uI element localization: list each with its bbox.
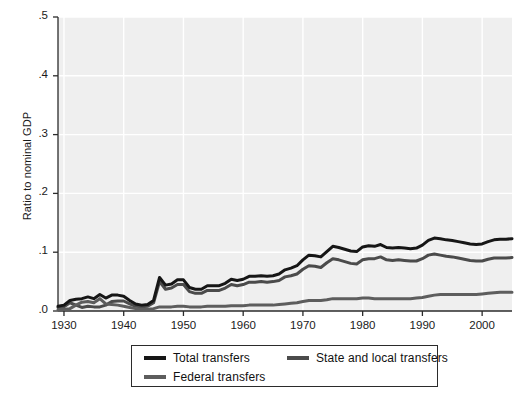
legend-swatch-icon xyxy=(144,356,166,360)
plot-background xyxy=(58,17,512,311)
plot-area xyxy=(0,0,524,403)
chart-legend: Total transfersState and local transfers… xyxy=(131,345,438,387)
legend-label: State and local transfers xyxy=(316,351,448,365)
legend-swatch-icon xyxy=(287,356,309,360)
legend-label: Total transfers xyxy=(173,351,250,365)
legend-swatch-icon xyxy=(144,375,166,379)
legend-label: Federal transfers xyxy=(173,370,265,384)
legend-item: State and local transfers xyxy=(287,351,437,365)
legend-row: Total transfersState and local transfers xyxy=(144,348,437,367)
legend-row: Federal transfers xyxy=(144,367,437,386)
chart-figure: Ratio to nominal GDP .0.1.2.3.4.5 193019… xyxy=(0,0,524,403)
legend-item: Total transfers xyxy=(144,351,287,365)
legend-item: Federal transfers xyxy=(144,370,296,384)
